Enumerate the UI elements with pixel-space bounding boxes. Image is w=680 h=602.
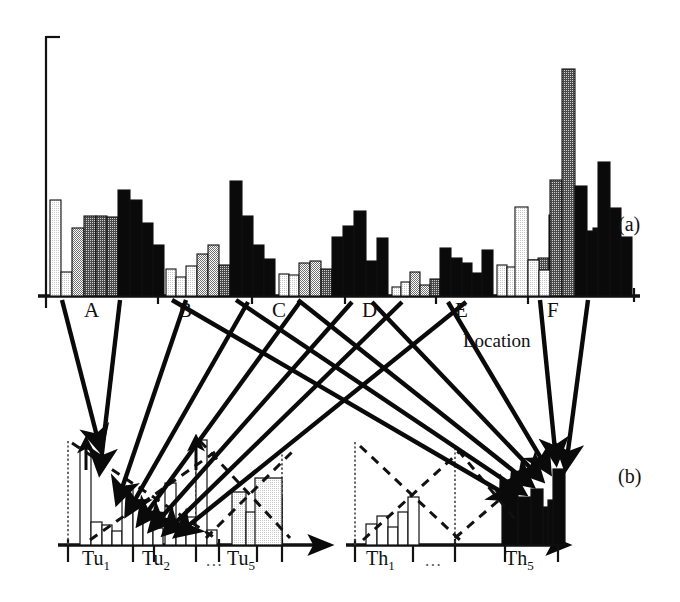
group-label-th1-text: Th — [366, 547, 388, 569]
axis-tick-label-C: C — [272, 300, 286, 321]
group-label-tu1-sub: 1 — [104, 558, 111, 573]
figure-canvas — [0, 0, 680, 602]
group-label-th1-sub: 1 — [388, 558, 395, 573]
axis-tick-label-D: D — [362, 300, 377, 321]
tu-ellipsis: ... — [206, 552, 223, 569]
axis-tick-label-B: B — [178, 300, 192, 321]
bar-group-A — [50, 190, 164, 296]
group-label-th5-sub: 5 — [527, 558, 534, 573]
group-label-th5-text: Th — [505, 547, 527, 569]
bar-group-C — [279, 211, 388, 296]
group-label-tu1: Tu1 — [82, 548, 110, 572]
axis-tick-label-A: A — [84, 300, 99, 321]
bar-group-F — [515, 69, 632, 296]
group-label-tu2-sub: 2 — [164, 558, 171, 573]
bar-group-B — [166, 181, 275, 296]
group-label-tu1-text: Tu — [82, 547, 104, 569]
th-ellipsis: ... — [425, 552, 442, 569]
group-label-tu2-text: Tu — [142, 547, 164, 569]
group-label-tu2: Tu2 — [142, 548, 170, 572]
group-label-th5: Th5 — [505, 548, 534, 572]
group-label-tu5: Tu5 — [227, 548, 255, 572]
panel-b-label: (b) — [618, 466, 641, 486]
axis-tick-label-E: E — [455, 300, 468, 321]
axis-tick-label-F: F — [547, 300, 559, 321]
group-label-tu5-sub: 5 — [249, 558, 256, 573]
panel-a-label: (a) — [618, 214, 640, 234]
bar-group-D — [392, 248, 493, 296]
figure-container: A B C D E F Location (a) (b) Tu1 Tu2 ...… — [0, 0, 680, 602]
axis-title-location: Location — [463, 331, 531, 350]
group-label-tu5-text: Tu — [227, 547, 249, 569]
group-label-th1: Th1 — [366, 548, 395, 572]
